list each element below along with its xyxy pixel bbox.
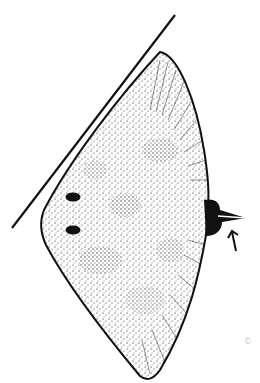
corner-mark: © (244, 337, 252, 346)
arrow-icon (228, 231, 238, 251)
spiracle-upper (66, 193, 81, 202)
ray-body (41, 52, 208, 379)
ray-illustration: © (0, 0, 260, 383)
tail-stub (204, 199, 246, 236)
spiracle-lower (66, 226, 81, 235)
